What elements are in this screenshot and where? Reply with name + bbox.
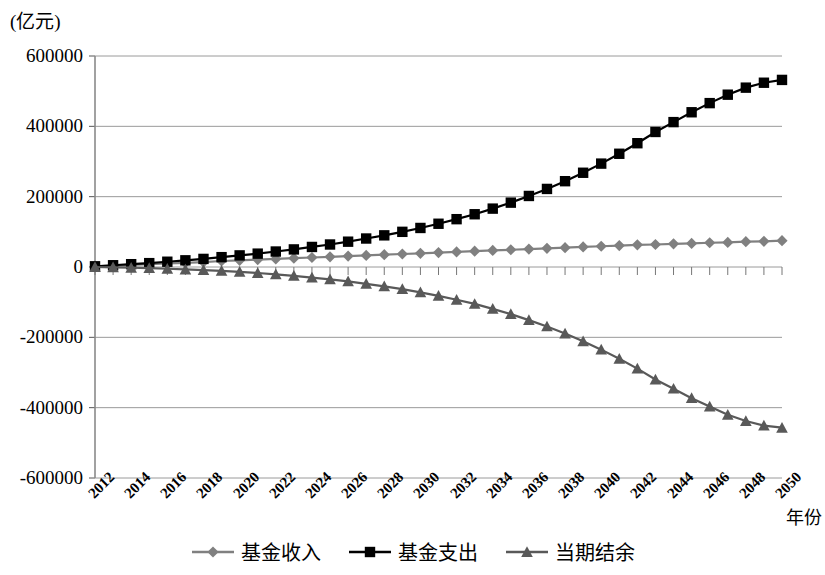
diamond-marker [686, 238, 697, 249]
diamond-marker [632, 239, 643, 250]
square-marker [668, 117, 678, 127]
y-tick-label: -400000 [0, 397, 83, 419]
square-marker [488, 203, 498, 213]
square-marker [234, 250, 244, 260]
legend-item-1[interactable]: 基金收入 [190, 537, 321, 566]
square-marker [271, 246, 281, 256]
y-tick-label: 400000 [0, 115, 83, 137]
diamond-marker [324, 251, 335, 262]
y-tick-label: -200000 [0, 326, 83, 348]
diamond-marker [306, 252, 317, 263]
square-marker [307, 242, 317, 252]
square-marker [578, 168, 588, 178]
square-marker [433, 219, 443, 229]
legend-label: 基金支出 [398, 537, 478, 566]
square-marker [289, 244, 299, 254]
triangle-marker [722, 409, 734, 420]
diamond-marker [559, 242, 570, 253]
square-marker [343, 236, 353, 246]
diamond-marker [415, 248, 426, 259]
diamond-marker [776, 235, 787, 246]
chart-legend: 基金收入基金支出当期结余 [0, 537, 825, 566]
triangle-marker [595, 344, 607, 355]
diamond-marker [379, 249, 390, 260]
diamond-marker [758, 236, 769, 247]
diamond-marker [578, 241, 589, 252]
chart-page: (亿元) 6000004000002000000-200000-400000-6… [0, 0, 825, 575]
diamond-marker [433, 247, 444, 258]
square-marker [216, 252, 226, 262]
triangle-marker [650, 374, 662, 385]
y-tick-label: 0 [0, 256, 83, 278]
diamond-marker [740, 236, 751, 247]
square-marker [506, 197, 516, 207]
square-marker [632, 138, 642, 148]
square-marker [704, 98, 714, 108]
diamond-marker [668, 238, 679, 249]
diamond-marker [361, 250, 372, 261]
square-marker [325, 239, 335, 249]
diamond-marker [469, 246, 480, 257]
y-tick-label: -600000 [0, 467, 83, 489]
diamond-marker [487, 245, 498, 256]
square-marker [723, 89, 733, 99]
square-marker [777, 75, 787, 85]
square-marker [415, 223, 425, 233]
series-3 [89, 261, 788, 432]
square-marker [596, 158, 606, 168]
legend-swatch-triangle [504, 543, 550, 561]
legend-label: 当期结余 [555, 537, 635, 566]
square-marker [614, 149, 624, 159]
square-marker [198, 254, 208, 264]
square-marker [524, 191, 534, 201]
diamond-marker [722, 237, 733, 248]
legend-label: 基金收入 [241, 537, 321, 566]
data-series-group [89, 75, 788, 433]
diamond-marker [614, 240, 625, 251]
y-tick-label: 600000 [0, 45, 83, 67]
legend-item-3[interactable]: 当期结余 [504, 537, 635, 566]
diamond-marker [397, 248, 408, 259]
square-marker [650, 127, 660, 137]
square-marker [469, 209, 479, 219]
diamond-marker [523, 243, 534, 254]
diamond-marker [650, 239, 661, 250]
diamond-marker [596, 241, 607, 252]
series-1 [89, 235, 787, 272]
triangle-marker [668, 383, 680, 394]
series-2 [90, 75, 787, 272]
series-line [95, 80, 782, 266]
diamond-marker [704, 237, 715, 248]
square-marker [365, 546, 375, 556]
legend-item-2[interactable]: 基金支出 [347, 537, 478, 566]
triangle-marker [686, 392, 698, 403]
square-marker [741, 82, 751, 92]
legend-swatch-square [347, 543, 393, 561]
diamond-marker [505, 244, 516, 255]
square-marker [397, 227, 407, 237]
triangle-marker [632, 363, 644, 374]
square-marker [686, 107, 696, 117]
diamond-marker [451, 246, 462, 257]
square-marker [361, 233, 371, 243]
square-marker [379, 230, 389, 240]
triangle-marker [613, 353, 625, 364]
square-marker [542, 184, 552, 194]
y-tick-label: 200000 [0, 186, 83, 208]
x-axis-title: 年份 [786, 503, 822, 529]
diamond-marker [541, 243, 552, 254]
legend-swatch-diamond [190, 543, 236, 561]
square-marker [560, 176, 570, 186]
square-marker [253, 248, 263, 258]
diamond-marker [343, 250, 354, 261]
triangle-marker [704, 401, 716, 412]
diamond-marker [207, 546, 218, 557]
square-marker [451, 214, 461, 224]
square-marker [759, 78, 769, 88]
